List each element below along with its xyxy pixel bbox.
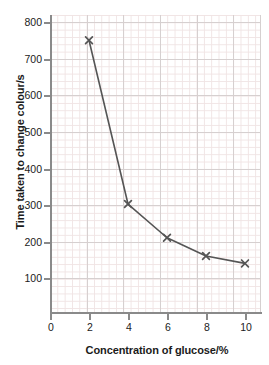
major-gridline-vertical	[260, 15, 261, 313]
y-axis-tick	[44, 242, 51, 244]
y-axis-title: Time taken to change colour/s	[14, 42, 30, 262]
x-axis-tick	[245, 313, 247, 320]
major-gridline-horizontal	[50, 59, 261, 60]
major-gridline-vertical	[160, 15, 161, 313]
plot-area	[50, 15, 261, 313]
x-axis-tick	[128, 313, 130, 320]
y-tick-label: 100	[12, 272, 42, 284]
major-gridline-vertical	[197, 15, 198, 313]
major-gridline-horizontal	[50, 205, 261, 206]
x-tick-label: 6	[153, 321, 183, 333]
y-axis-tick	[44, 169, 51, 171]
x-tick-label: 0	[36, 321, 66, 333]
major-gridline-vertical	[123, 15, 124, 313]
y-axis-tick	[44, 22, 51, 24]
y-tick-label: 200	[12, 236, 42, 248]
major-gridline-horizontal	[50, 22, 261, 23]
y-tick-label: 300	[12, 199, 42, 211]
major-gridline-horizontal	[50, 278, 261, 279]
y-axis-tick	[44, 95, 51, 97]
y-tick-label: 400	[12, 163, 42, 175]
major-gridline-horizontal	[50, 242, 261, 243]
x-tick-label: 4	[114, 321, 144, 333]
y-tick-label: 700	[12, 53, 42, 65]
y-axis-tick	[44, 132, 51, 134]
x-tick-label: 10	[231, 321, 261, 333]
major-gridline-horizontal	[50, 95, 261, 96]
y-axis-tick	[44, 278, 51, 280]
y-tick-label: 600	[12, 89, 42, 101]
major-gridline-horizontal	[50, 169, 261, 170]
x-axis-line	[50, 312, 262, 314]
major-gridline-vertical	[87, 15, 88, 313]
line-chart: Time taken to change colour/s 800 700 60…	[0, 0, 269, 365]
y-axis-tick	[44, 205, 51, 207]
x-axis-tick	[167, 313, 169, 320]
x-tick-label: 2	[75, 321, 105, 333]
x-axis-tick	[50, 313, 52, 320]
x-axis-tick	[206, 313, 208, 320]
y-tick-label: 500	[12, 126, 42, 138]
x-tick-label: 8	[192, 321, 222, 333]
y-axis-tick	[44, 59, 51, 61]
y-tick-label: 800	[12, 16, 42, 28]
major-gridline-vertical	[233, 15, 234, 313]
major-gridline-horizontal	[50, 132, 261, 133]
x-axis-title: Concentration of glucose/%	[45, 344, 269, 356]
x-axis-tick	[89, 313, 91, 320]
